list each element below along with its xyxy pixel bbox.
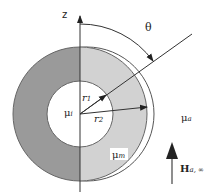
mu-a-subscript: a [188,115,192,123]
theta-label: θ [145,22,152,33]
mu-i-subscript: i [71,110,73,118]
r1-subscript: 1 [87,95,91,103]
mu-i-label: μi [64,108,73,118]
r1-label: r1 [82,93,91,103]
mu-m-label: μm [112,150,125,160]
field-subscript: a, ∞ [189,166,203,174]
mu-a-label: μa [181,113,192,123]
z-axis-label: z [62,10,67,20]
r2-subscript: 2 [99,116,103,124]
r2-label: r2 [94,114,103,124]
field-arrow-head [166,142,178,159]
mu-m-subscript: m [119,152,126,160]
field-label: Ha, ∞ [180,164,204,174]
